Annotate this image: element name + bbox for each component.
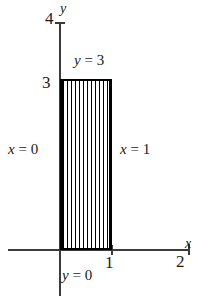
boundary-label-top: y = 3 <box>74 53 104 68</box>
boundary-label-left: x = 0 <box>8 142 38 157</box>
y-axis-label: y <box>60 2 66 16</box>
y-tick-label-4: 4 <box>45 10 54 27</box>
x-axis-label: x <box>185 237 191 251</box>
boundary-label-bottom: y = 0 <box>62 268 92 283</box>
x-tick-label-1: 1 <box>105 254 114 271</box>
math-region-figure: 4 y 3 y = 3 x = 0 x = 1 1 2 x y = 0 <box>0 0 197 296</box>
y-axis-end-tick <box>55 22 65 24</box>
x-tick-label-2: 2 <box>176 253 185 270</box>
y-tick-label-3: 3 <box>42 74 51 91</box>
hatched-region <box>60 79 112 250</box>
boundary-label-right: x = 1 <box>120 142 150 157</box>
